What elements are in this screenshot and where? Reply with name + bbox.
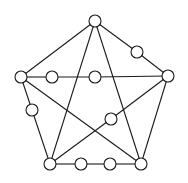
node-layer — [15, 15, 174, 170]
edge-top-left — [21, 21, 95, 77]
edge-left_mid-bottom_left — [32, 110, 50, 164]
node-right — [162, 70, 174, 82]
node-bottom-a — [75, 158, 87, 170]
node-bottom-right — [135, 158, 147, 170]
node-left-mid — [26, 104, 38, 116]
node-center-right — [105, 113, 117, 125]
node-upper-right-mid — [131, 46, 143, 58]
edge-right-bottom_right — [141, 76, 168, 164]
edge-top-bottom_right — [95, 21, 141, 164]
node-mid-a — [46, 71, 58, 83]
node-left — [15, 71, 27, 83]
node-mid-b — [89, 71, 101, 83]
node-top — [89, 15, 101, 27]
edge-layer — [21, 21, 168, 164]
edge-left-bottom_right — [21, 77, 141, 164]
edge-mid_b-right — [95, 76, 168, 77]
node-bottom-left — [44, 158, 56, 170]
graph-diagram — [0, 0, 188, 183]
edge-top-upper_right_mid — [95, 21, 137, 52]
node-bottom-b — [104, 158, 116, 170]
edge-top-bottom_left — [50, 21, 95, 164]
edge-center_right-bottom_left — [50, 119, 111, 164]
